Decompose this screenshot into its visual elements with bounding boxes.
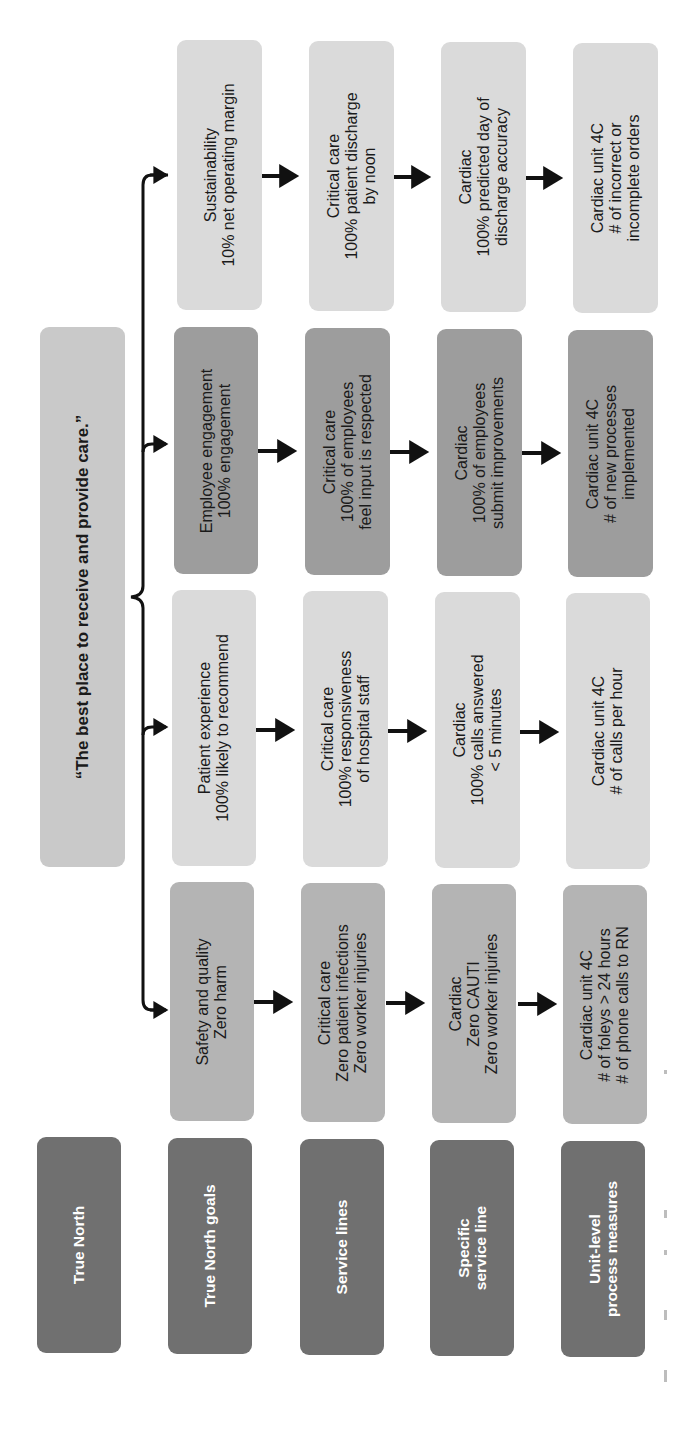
unit-measure-employee-engagement: Cardiac unit 4C # of new processes imple… [568, 330, 653, 577]
box-line: Cardiac unit 4C [590, 667, 608, 794]
box-line: Zero harm [212, 938, 230, 1065]
box-line: Zero worker injuries [483, 933, 501, 1073]
box-line: Cardiac [451, 654, 469, 805]
box-line: Zero CAUTI [465, 933, 483, 1073]
unit-measure-safety-quality: Cardiac unit 4C # of foleys > 24 hours #… [563, 885, 647, 1124]
goal-sustainability: Sustainability 10% net operating margin [177, 40, 262, 310]
box-line: incomplete orders [624, 114, 642, 241]
goal-employee-engagement: Employee engagement 100% engagement [174, 327, 258, 574]
unit-measure-patient-experience: Cardiac unit 4C # of calls per hour [566, 593, 650, 869]
specific-line-patient-experience: Cardiac 100% calls answered < 5 minutes [435, 592, 520, 868]
box-text: Cardiac 100% predicted day of discharge … [457, 97, 511, 256]
box-text: Cardiac unit 4C # of calls per hour [590, 667, 626, 794]
box-line: Safety and quality [194, 938, 212, 1065]
box-line: Cardiac unit 4C [578, 926, 596, 1083]
box-line: 100% of employees [339, 374, 357, 530]
box-line: Critical care [319, 651, 337, 808]
box-line: < 5 minutes [486, 654, 504, 805]
arrow-icon [143, 444, 166, 452]
box-text: Sustainability 10% net operating margin [202, 83, 238, 266]
box-line: Cardiac unit 4C [589, 114, 607, 241]
box-text: Safety and quality Zero harm [194, 938, 230, 1065]
box-text: Patient experience 100% likely to recomm… [196, 634, 232, 822]
box-line: Zero worker injuries [352, 924, 370, 1081]
figure-caption-clipped [664, 1060, 680, 1390]
box-line: Cardiac [457, 97, 475, 256]
box-line: feel input is respected [356, 374, 374, 530]
box-text: Cardiac unit 4C # of foleys > 24 hours #… [578, 926, 632, 1083]
arrow-icon [143, 727, 166, 735]
box-line: Sustainability [202, 83, 220, 266]
box-line: 10% net operating margin [220, 83, 238, 266]
specific-line-employee-engagement: Cardiac 100% of employees submit improve… [437, 329, 522, 576]
box-line: Critical care [316, 924, 334, 1081]
box-text: Cardiac unit 4C # of incorrect or incomp… [589, 114, 643, 241]
box-line: # of calls per hour [608, 667, 626, 794]
box-line: implemented [619, 385, 637, 523]
box-line: # of incorrect or [607, 114, 625, 241]
box-text: Critical care 100% responsiveness of hos… [319, 651, 373, 808]
box-line: Critical care [325, 92, 343, 259]
box-line: # of new processes [602, 385, 620, 523]
service-line-employee-engagement: Critical care 100% of employees feel inp… [305, 328, 390, 575]
box-text: Critical care 100% of employees feel inp… [321, 374, 375, 530]
box-text: Cardiac 100% of employees submit improve… [453, 376, 507, 528]
box-line: 100% responsiveness [337, 651, 355, 808]
specific-line-sustainability: Cardiac 100% predicted day of discharge … [441, 42, 526, 312]
box-line: Cardiac [453, 376, 471, 528]
box-line: # of phone calls to RN [614, 926, 632, 1083]
box-text: Cardiac 100% calls answered < 5 minutes [451, 654, 505, 805]
box-line: # of foleys > 24 hours [596, 926, 614, 1083]
box-line: of hospital staff [354, 651, 372, 808]
box-text: Critical care 100% patient discharge by … [325, 92, 379, 259]
goal-patient-experience: Patient experience 100% likely to recomm… [172, 590, 256, 866]
box-text: Critical care Zero patient infections Ze… [316, 924, 370, 1081]
box-text: Cardiac unit 4C # of new processes imple… [584, 385, 638, 523]
box-line: by noon [360, 92, 378, 259]
box-text: Cardiac Zero CAUTI Zero worker injuries [447, 933, 501, 1073]
service-line-patient-experience: Critical care 100% responsiveness of hos… [303, 591, 388, 867]
box-line: Cardiac unit 4C [584, 385, 602, 523]
box-line: Critical care [321, 374, 339, 530]
goal-safety-quality: Safety and quality Zero harm [170, 882, 254, 1121]
box-line: Cardiac [447, 933, 465, 1073]
box-line: 100% predicted day of [475, 97, 493, 256]
box-line: Zero patient infections [334, 924, 352, 1081]
box-line: 100% likely to recommend [214, 634, 232, 822]
box-line: Patient experience [196, 634, 214, 822]
unit-measure-sustainability: Cardiac unit 4C # of incorrect or incomp… [573, 43, 658, 313]
box-line: 100% calls answered [469, 654, 487, 805]
service-line-sustainability: Critical care 100% patient discharge by … [309, 41, 394, 311]
box-line: 100% engagement [216, 368, 234, 533]
box-line: 100% patient discharge [343, 92, 361, 259]
specific-line-safety-quality: Cardiac Zero CAUTI Zero worker injuries [432, 884, 516, 1123]
box-line: 100% of employees [471, 376, 489, 528]
box-line: Employee engagement [198, 368, 216, 533]
box-line: discharge accuracy [492, 97, 510, 256]
service-line-safety-quality: Critical care Zero patient infections Ze… [301, 883, 385, 1122]
box-text: Employee engagement 100% engagement [198, 368, 234, 533]
box-line: submit improvements [488, 376, 506, 528]
